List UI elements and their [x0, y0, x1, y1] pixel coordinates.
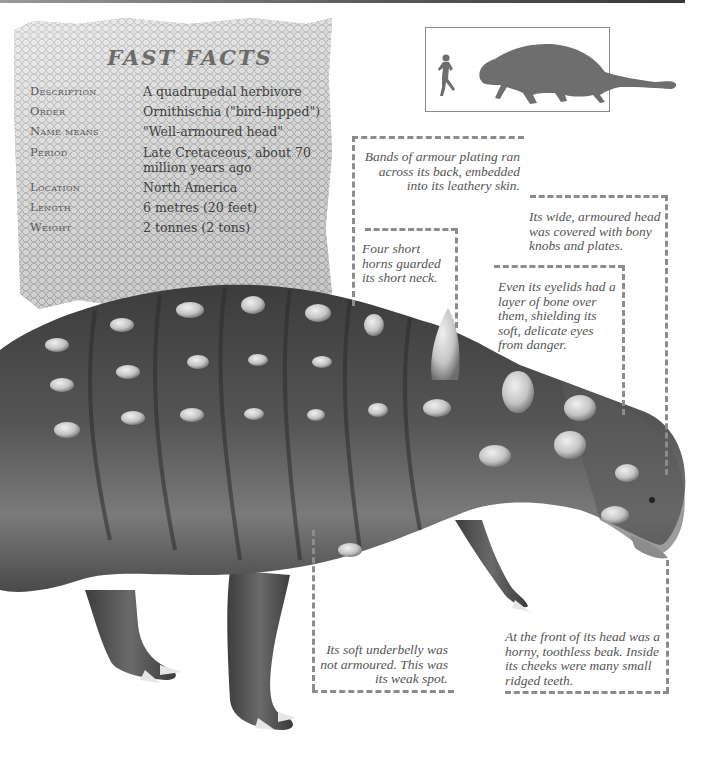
top-rule [0, 0, 685, 3]
fact-value: Late Cretaceous, about 70 million years … [143, 145, 313, 175]
leader-line [622, 265, 625, 415]
fact-value: A quadrupedal herbivore [143, 84, 343, 99]
callout-head-armour: Its wide, armoured head was covered with… [529, 210, 664, 254]
leader-line [455, 228, 458, 328]
leader-line [312, 530, 315, 690]
fact-value: Ornithischia ("bird-hipped") [143, 104, 343, 119]
fact-value: 6 metres (20 feet) [143, 200, 343, 215]
leader-line [352, 136, 355, 306]
leader-line [365, 228, 457, 231]
scale-comparison-silhouettes [425, 27, 708, 112]
callout-beak: At the front of its head was a horny, to… [505, 630, 665, 688]
leader-line [312, 690, 454, 693]
callout-underbelly: Its soft underbelly was not armoured. Th… [318, 643, 448, 687]
leader-line [505, 691, 669, 694]
fact-value: "Well-armoured head" [143, 124, 343, 139]
fact-label: Location [30, 180, 80, 194]
fact-label: Length [30, 200, 71, 214]
fact-label: Name means [30, 124, 99, 138]
leader-line [530, 195, 667, 198]
fact-value: 2 tonnes (2 tons) [143, 220, 343, 235]
leader-line [665, 195, 668, 475]
leader-line [352, 136, 524, 139]
callout-neck-horns: Four short horns guarded its short neck. [362, 242, 452, 286]
human-silhouette-icon [438, 55, 455, 97]
leader-line [666, 560, 669, 693]
fact-label: Description [30, 84, 97, 98]
leader-line [494, 265, 624, 268]
fact-label: Weight [30, 220, 71, 234]
callout-eyelids: Even its eyelids had a layer of bone ove… [498, 280, 618, 353]
fast-facts-title: FAST FACTS [0, 45, 360, 70]
fact-label: Period [30, 145, 68, 159]
ankylosaur-silhouette-icon [479, 44, 676, 104]
callout-armour-bands: Bands of armour plating ran across its b… [360, 150, 520, 194]
fact-value: North America [143, 180, 343, 195]
fact-label: Order [30, 104, 65, 118]
